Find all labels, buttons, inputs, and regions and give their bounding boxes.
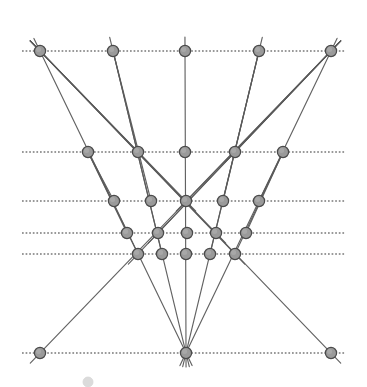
node-r4-c3-highlight [183, 229, 188, 234]
node-r6-c3-highlight [327, 349, 332, 354]
node-r1-c3-highlight [181, 47, 186, 52]
node-r6-c2-highlight [182, 349, 187, 354]
node-r1-c2-highlight [109, 47, 114, 52]
node-r4-c4-highlight [212, 229, 217, 234]
node-r1-c4-highlight [255, 47, 260, 52]
configuration-diagram [0, 0, 367, 387]
node-r3-c2-highlight [147, 197, 152, 202]
node-r5-c3-highlight [182, 250, 187, 255]
node-r5-c4-highlight [206, 250, 211, 255]
node-r2-c5-highlight [279, 148, 284, 153]
node-r2-c4-highlight [231, 148, 236, 153]
node-r3-c5-highlight [255, 197, 260, 202]
node-r2-c2-highlight [134, 148, 139, 153]
node-r5-c2-highlight [158, 250, 163, 255]
figure-container [0, 0, 367, 387]
node-r2-c1-highlight [84, 148, 89, 153]
node-r3-c1-highlight [110, 197, 115, 202]
node-r1-c1-highlight [36, 47, 41, 52]
node-r3-c4-highlight [219, 197, 224, 202]
node-r1-c5-highlight [327, 47, 332, 52]
node-r2-c3-highlight [181, 148, 186, 153]
node-r5-c5-highlight [231, 250, 236, 255]
node-r5-c1-highlight [134, 250, 139, 255]
cropped-caption-marker [83, 377, 93, 387]
caption-ghost-layer [83, 377, 93, 387]
node-r4-c1-highlight [123, 229, 128, 234]
node-r3-c3-highlight [182, 197, 187, 202]
node-r4-c2-highlight [154, 229, 159, 234]
node-r6-c1-highlight [36, 349, 41, 354]
node-r4-c5-highlight [242, 229, 247, 234]
